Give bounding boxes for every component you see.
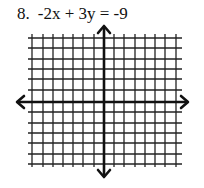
coordinate-grid bbox=[0, 0, 204, 188]
